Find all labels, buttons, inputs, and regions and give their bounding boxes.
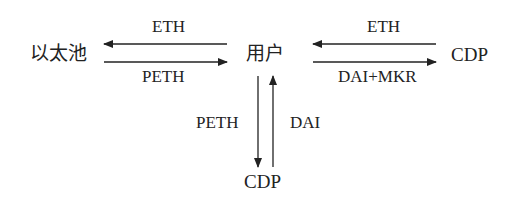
label-cdp-bottom-to-user: DAI [290,114,320,131]
label-user-to-cdp-bottom: PETH [196,114,239,131]
label-pool-to-user: PETH [142,68,185,85]
label-user-to-pool: ETH [152,18,185,35]
node-cdp-right: CDP [451,45,488,64]
node-ether-pool: 以太池 [30,44,87,63]
node-cdp-bottom: CDP [244,172,281,191]
node-user: 用户 [246,44,284,63]
label-user-to-cdp: DAI+MKR [338,68,417,85]
label-cdp-to-user: ETH [367,18,400,35]
